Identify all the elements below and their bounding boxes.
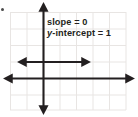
coordinate-plane: [0, 0, 138, 117]
graph-figure: slope = 0 y-intercept = 1: [0, 0, 138, 117]
